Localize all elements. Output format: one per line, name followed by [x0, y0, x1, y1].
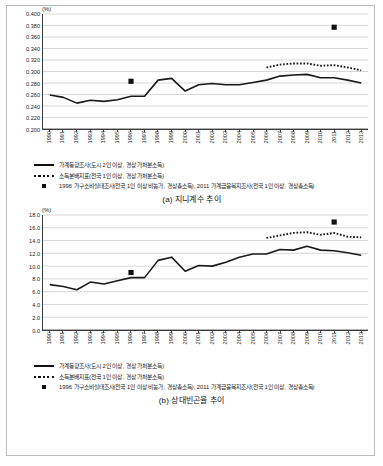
- x-axis-tick-mark: [49, 331, 50, 333]
- x-axis-tick-label: 2007: [277, 131, 283, 143]
- solid-line-icon: [33, 365, 55, 367]
- x-axis-tick-label: 1991: [59, 131, 65, 143]
- series-line-dotted-a: [266, 63, 361, 70]
- x-axis-tick-label: 2009: [304, 131, 310, 143]
- legend-item-index-a: 소득분배지표(전국 1인 이상, 경상 가처분소득): [33, 172, 368, 180]
- x-axis-tick-label: 1997: [141, 332, 147, 344]
- x-axis-tick-mark: [103, 130, 104, 132]
- series-line-solid-b: [50, 246, 361, 289]
- y-axis-tick-label: 4.0: [32, 302, 40, 308]
- y-axis-tick-label: 12.0: [29, 251, 40, 257]
- x-axis-tick-mark: [198, 331, 199, 333]
- x-axis-tick-mark: [171, 130, 172, 132]
- chart-svg-b: [43, 215, 368, 330]
- y-axis-tick-label: 0.320: [26, 57, 40, 63]
- x-axis-tick-mark: [144, 331, 145, 333]
- x-axis-tick-mark: [361, 130, 362, 132]
- y-axis-tick-label: 0.0: [32, 328, 40, 334]
- dotted-line-icon: [33, 376, 55, 378]
- x-axis-tick-label: 2006: [263, 131, 269, 143]
- x-axis-tick-mark: [144, 130, 145, 132]
- y-axis-tick-label: 2.0: [32, 315, 40, 321]
- y-axis-tick-label: 0.280: [26, 81, 40, 87]
- legend-label: 가계동향조사(도시 2인 이상, 경상 가처분소득): [59, 362, 164, 370]
- x-axis-tick-mark: [212, 331, 213, 333]
- x-axis-tick-mark: [293, 130, 294, 132]
- x-axis-b: 1990199119921993199419951996199719981999…: [42, 331, 368, 347]
- x-axis-tick-mark: [103, 331, 104, 333]
- x-axis-tick-label: 2008: [290, 131, 296, 143]
- y-axis-tick-label: 0.220: [26, 115, 40, 121]
- x-axis-tick-label: 2011: [331, 332, 337, 344]
- y-axis-a: 0.4000.3800.3600.3400.3200.3000.2800.260…: [15, 14, 42, 130]
- legend-item-index-b: 소득분배지표(전국 1인 이상, 경상 가처분소득): [33, 373, 368, 381]
- x-axis-tick-label: 2005: [250, 131, 256, 143]
- legend-item-survey-b: 가계동향조사(도시 2인 이상, 경상 가처분소득): [33, 362, 368, 370]
- x-axis-tick-mark: [320, 130, 321, 132]
- x-axis-tick-label: 2008: [290, 332, 296, 344]
- x-axis-tick-mark: [253, 331, 254, 333]
- x-axis-tick-label: 2002: [209, 131, 215, 143]
- x-axis-tick-label: 1999: [168, 332, 174, 344]
- figure-caption-b: (b) 상대빈곤율 추이: [15, 395, 368, 406]
- x-axis-tick-label: 1998: [154, 131, 160, 143]
- x-axis-tick-mark: [239, 130, 240, 132]
- y-axis-tick-label: 10.0: [29, 264, 40, 270]
- x-axis-tick-label: 2007: [277, 332, 283, 344]
- x-axis-tick-mark: [348, 331, 349, 333]
- x-axis-tick-mark: [171, 331, 172, 333]
- data-point-marker: [128, 79, 133, 84]
- x-axis-tick-label: 1992: [73, 131, 79, 143]
- legend-a: 가계동향조사(도시 2인 이상, 경상 가처분소득) 소득분배지표(전국 1인 …: [15, 161, 368, 190]
- data-point-marker: [332, 25, 337, 30]
- square-marker-icon: [33, 184, 55, 189]
- x-axis-tick-mark: [225, 130, 226, 132]
- x-axis-tick-mark: [130, 130, 131, 132]
- x-axis-tick-label: 2012: [345, 131, 351, 143]
- x-axis-tick-label: 2013: [358, 332, 364, 344]
- x-axis-tick-mark: [280, 331, 281, 333]
- x-axis-tick-label: 2006: [263, 332, 269, 344]
- x-axis-tick-mark: [239, 331, 240, 333]
- x-axis-tick-mark: [90, 331, 91, 333]
- chart-b: (%) 18.016.014.012.010.08.06.04.02.00.0 …: [15, 207, 368, 347]
- x-axis-tick-label: 2003: [222, 332, 228, 344]
- x-axis-tick-mark: [130, 331, 131, 333]
- y-axis-tick-label: 14.0: [29, 238, 40, 244]
- data-point-marker: [332, 219, 337, 224]
- x-axis-tick-label: 1996: [127, 332, 133, 344]
- x-axis-tick-label: 2009: [304, 332, 310, 344]
- x-axis-tick-label: 2004: [236, 131, 242, 143]
- x-axis-a: 1990199119921993199419951996199719981999…: [42, 130, 368, 146]
- legend-label: 소득분배지표(전국 1인 이상, 경상 가처분소득): [59, 373, 164, 381]
- y-axis-tick-label: 18.0: [29, 212, 40, 218]
- x-axis-tick-mark: [266, 331, 267, 333]
- y-axis-b: 18.016.014.012.010.08.06.04.02.00.0: [15, 215, 42, 331]
- y-axis-tick-label: 0.260: [26, 92, 40, 98]
- dotted-line-icon: [33, 175, 55, 177]
- x-axis-tick-mark: [185, 331, 186, 333]
- y-axis-tick-label: 0.200: [26, 127, 40, 133]
- legend-label: 1996 가구소비실태조사(전국 1인 이상 비농가, 경상총소득), 2011…: [59, 383, 314, 391]
- x-axis-tick-label: 2000: [182, 332, 188, 344]
- figure-caption-a: (a) 지니계수 추이: [15, 194, 368, 205]
- series-line-dotted-b: [266, 232, 361, 238]
- x-axis-tick-label: 1998: [154, 332, 160, 344]
- solid-line-icon: [33, 164, 55, 166]
- square-marker-icon: [33, 385, 55, 390]
- x-axis-tick-mark: [157, 331, 158, 333]
- y-axis-unit-b: (%): [42, 207, 368, 214]
- y-axis-tick-label: 0.380: [26, 23, 40, 29]
- x-axis-tick-label: 2003: [222, 131, 228, 143]
- legend-item-survey-a: 가계동향조사(도시 2인 이상, 경상 가처분소득): [33, 161, 368, 169]
- x-axis-tick-mark: [253, 130, 254, 132]
- gridlines-a: [43, 14, 368, 129]
- x-axis-tick-mark: [117, 130, 118, 132]
- x-axis-tick-label: 1995: [114, 332, 120, 344]
- x-axis-tick-mark: [334, 130, 335, 132]
- x-axis-tick-mark: [117, 331, 118, 333]
- legend-b: 가계동향조사(도시 2인 이상, 경상 가처분소득) 소득분배지표(전국 1인 …: [15, 362, 368, 391]
- x-axis-tick-mark: [307, 331, 308, 333]
- y-axis-tick-label: 8.0: [32, 276, 40, 282]
- x-axis-tick-mark: [76, 130, 77, 132]
